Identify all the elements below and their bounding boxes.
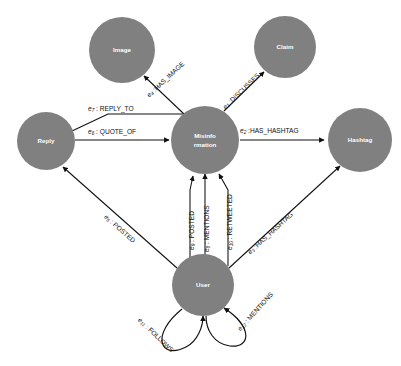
edge-e3-has-hashtag[interactable]: e3 :HAS_HASHTAG (229, 166, 340, 268)
node-label-image: Image (113, 46, 131, 53)
node-reply[interactable]: Reply (17, 112, 75, 170)
edge-label-e9: e9 : POSTED (188, 211, 196, 250)
edge-label-e4: e4 :HAS_IMAGE (145, 59, 186, 98)
edge-name-e2: HAS_HASHTAG (250, 127, 299, 135)
edge-e2-has-hashtag[interactable]: e2 :HAS_HASHTAG (240, 127, 324, 140)
edge-label-e1: e1 :DISCUSSES (221, 71, 262, 111)
node-image[interactable]: Image (89, 17, 155, 83)
edge-label-e12: e12 : MENTIONS (236, 290, 275, 332)
edge-e11-follows[interactable]: e11 : FOLLOWS (136, 309, 203, 354)
edge-name-e8: MENTIONS (203, 205, 210, 240)
edge-name-e9: POSTED (188, 211, 195, 238)
edge-e9-posted[interactable]: e9 : POSTED (188, 176, 196, 262)
edge-label-e6: e6 : QUOTE_OF (88, 128, 136, 136)
edge-name-e4: HAS_IMAGE (152, 59, 186, 92)
edge-name-e7: REPLY_TO (100, 105, 134, 113)
edge-e1-discusses[interactable]: e1 :DISCUSSES (221, 71, 264, 111)
edge-name-e5: POSTED (112, 221, 137, 244)
edge-e5-posted[interactable]: e5 : POSTED (63, 167, 177, 268)
node-label-user: User (196, 281, 210, 288)
edge-name-e10: RETWEETED (226, 194, 233, 236)
edge-e8-mentions[interactable]: e8 : MENTIONS (203, 174, 211, 262)
edge-name-e11: FOLLOWS (147, 326, 175, 354)
node-label-hashtag: Hashtag (348, 136, 373, 143)
edge-label-e8: e8 : MENTIONS (203, 205, 211, 252)
node-label-claim: Claim (277, 43, 294, 50)
node-claim[interactable]: Claim (254, 16, 316, 78)
edge-name-e3: HAS_HASHTAG (253, 210, 294, 249)
edge-line (63, 167, 177, 268)
node-label-misinformation-line2: rmation (194, 141, 217, 148)
edge-label-e3: e3 :HAS_HASHTAG (246, 210, 295, 256)
node-label-reply: Reply (38, 137, 55, 144)
node-misinformation[interactable]: Misinfo rmation (171, 106, 239, 174)
edge-name-e1: DISCUSSES (228, 71, 261, 103)
edge-label-e2: e2 :HAS_HASHTAG (240, 127, 299, 135)
edge-e4-has-image[interactable]: e4 :HAS_IMAGE (144, 59, 186, 114)
edge-label-e7: e7 : REPLY_TO (88, 105, 134, 113)
node-hashtag[interactable]: Hashtag (328, 108, 392, 172)
node-user[interactable]: User (172, 254, 234, 316)
edge-label-e10: e10 : RETWEETED (226, 194, 234, 250)
graph-canvas: e4 :HAS_IMAGE e1 :DISCUSSES e7 : REPLY_T… (0, 0, 401, 366)
edge-name-e6: QUOTE_OF (100, 128, 136, 136)
edge-e6-quote-of[interactable]: e6 : QUOTE_OF (75, 128, 169, 140)
edge-e10-retweeted[interactable]: e10 : RETWEETED (219, 174, 234, 266)
edge-name-e12: MENTIONS (245, 290, 274, 321)
node-label-misinformation: Misinfo (194, 132, 216, 139)
